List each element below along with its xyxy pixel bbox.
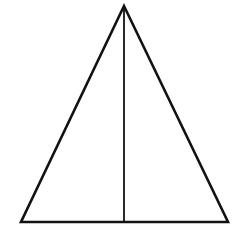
figure-canvas: [0, 0, 246, 238]
triangle-diagram: [0, 0, 246, 238]
